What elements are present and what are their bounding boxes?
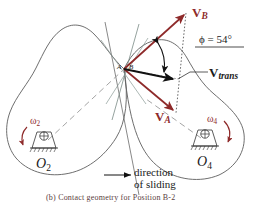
vector-construction-dotted — [124, 13, 186, 113]
vtrans-leader-line — [178, 72, 208, 79]
vector-vb-label: VB — [192, 6, 208, 22]
angle-arc-indicator — [158, 43, 165, 72]
o4-label: O4 — [197, 155, 212, 171]
phi-angle-label: ϕ = 54° — [199, 34, 232, 45]
vector-va — [124, 69, 173, 110]
direction-of-sliding-label: direction of sliding — [134, 167, 176, 190]
pivot-ground-symbol-o2 — [30, 132, 58, 152]
vector-va-label: VA — [155, 110, 171, 126]
point-b-label: B — [129, 64, 133, 71]
figure-canvas: VB VA Vtrans ϕ = 54° A B ω2 ω4 O2 O4 dir… — [0, 0, 261, 202]
radius-o2-to-a — [48, 71, 122, 140]
o2-label: O2 — [36, 157, 51, 173]
omega4-arrow — [224, 121, 230, 142]
point-a-label: A — [117, 64, 121, 71]
omega4-label: ω4 — [207, 114, 217, 126]
vector-vb — [124, 15, 184, 69]
omega2-label: ω2 — [30, 116, 40, 128]
figure-caption: (b) Contact geometry for Position B-2 — [46, 194, 175, 202]
angle-arc — [158, 43, 165, 72]
omega2-arrow — [22, 127, 27, 145]
direction-line-1: direction — [134, 167, 176, 179]
radius-lines — [48, 71, 201, 140]
pivot-ground-symbol-o4 — [191, 130, 219, 150]
vector-vtrans-label: Vtrans — [209, 66, 238, 82]
sliding-leader — [104, 172, 131, 177]
cam-body-right — [124, 40, 244, 180]
dotted-closure-line — [176, 13, 186, 113]
direction-line-2: of sliding — [134, 179, 176, 191]
